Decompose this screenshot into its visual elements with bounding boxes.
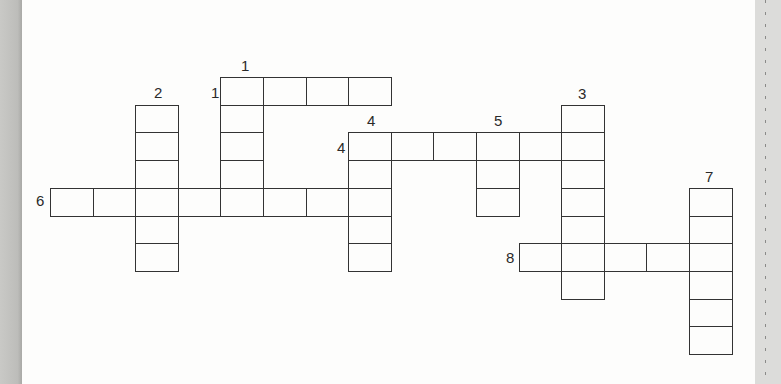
crossword-cell[interactable] [561, 105, 605, 133]
crossword-cell[interactable] [391, 132, 434, 161]
crossword-cell[interactable] [263, 77, 307, 106]
crossword-cell[interactable] [561, 271, 605, 300]
clue-number: 5 [494, 113, 502, 128]
crossword-cell[interactable] [348, 243, 392, 272]
crossword-cell[interactable] [561, 243, 605, 272]
crossword-cell[interactable] [689, 326, 733, 355]
crossword-cell[interactable] [689, 216, 733, 244]
crossword-cell[interactable] [561, 132, 605, 161]
crossword-cell[interactable] [220, 105, 264, 133]
crossword-cell[interactable] [220, 160, 264, 189]
crossword-cell[interactable] [178, 188, 221, 217]
crossword-cell[interactable] [689, 188, 733, 217]
crossword-cell[interactable] [519, 243, 562, 272]
crossword-cell[interactable] [135, 243, 179, 272]
crossword-cell[interactable] [220, 188, 264, 217]
clue-number: 3 [578, 86, 586, 101]
crossword-cell[interactable] [689, 243, 733, 272]
crossword-cell[interactable] [220, 77, 264, 106]
clue-number: 8 [506, 250, 514, 265]
crossword-cell[interactable] [93, 188, 136, 217]
crossword-cell[interactable] [476, 160, 520, 189]
crossword-cell[interactable] [135, 132, 179, 161]
crossword-cell[interactable] [433, 132, 477, 161]
crossword-cell[interactable] [263, 188, 307, 217]
crossword-cell[interactable] [306, 188, 349, 217]
crossword-cell[interactable] [561, 216, 605, 244]
clue-number: 2 [154, 85, 162, 100]
clue-number: 1 [211, 85, 219, 100]
crossword-cell[interactable] [306, 77, 349, 106]
crossword-cell[interactable] [135, 160, 179, 189]
crossword-cell[interactable] [348, 188, 392, 217]
crossword-cell[interactable] [348, 216, 392, 244]
crossword-cell[interactable] [348, 77, 392, 106]
crossword-cell[interactable] [135, 105, 179, 133]
clue-number: 6 [36, 193, 44, 208]
clue-number: 1 [241, 58, 249, 73]
crossword-cell[interactable] [646, 243, 690, 272]
crossword-cell[interactable] [689, 271, 733, 300]
crossword-cell[interactable] [519, 132, 562, 161]
crossword-cell[interactable] [476, 188, 520, 217]
crossword-cell[interactable] [561, 160, 605, 189]
crossword-cell[interactable] [135, 188, 179, 217]
clue-number: 4 [367, 113, 375, 128]
crossword-cell[interactable] [476, 132, 520, 161]
crossword-cell[interactable] [689, 299, 733, 327]
clue-number: 4 [337, 140, 345, 155]
crossword-cell[interactable] [50, 188, 94, 217]
crossword-cell[interactable] [135, 216, 179, 244]
clue-number: 7 [705, 169, 713, 184]
crossword-cell[interactable] [220, 132, 264, 161]
crossword-grid: 1123445678 [0, 0, 781, 384]
crossword-cell[interactable] [348, 132, 392, 161]
crossword-cell[interactable] [561, 188, 605, 217]
crossword-cell[interactable] [348, 160, 392, 189]
crossword-cell[interactable] [604, 243, 647, 272]
